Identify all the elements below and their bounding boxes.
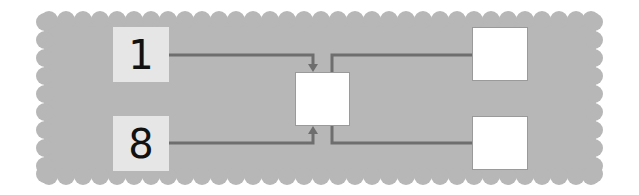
input-box-top: 1 bbox=[113, 27, 169, 82]
diagram-stage: 1 8 bbox=[0, 0, 639, 195]
input-box-bottom: 8 bbox=[113, 116, 169, 171]
output-box-top[interactable] bbox=[472, 27, 528, 81]
output-box-bottom[interactable] bbox=[472, 116, 528, 170]
center-answer-box[interactable] bbox=[295, 72, 350, 126]
input-value-bottom: 8 bbox=[128, 124, 153, 164]
input-value-top: 1 bbox=[128, 35, 153, 75]
